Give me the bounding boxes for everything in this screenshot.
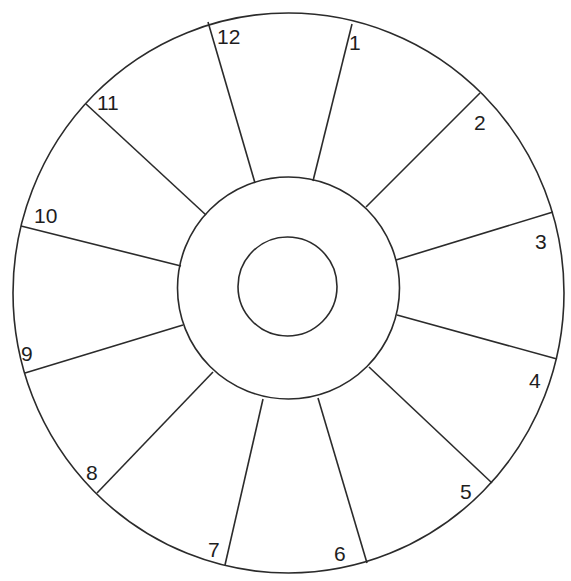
wheel-svg: 123456789101112 <box>0 0 571 581</box>
segment-label-6: 6 <box>334 542 346 565</box>
inner-circle <box>238 237 337 336</box>
outer-ring <box>13 13 564 573</box>
spoke-5 <box>369 367 492 483</box>
spoke-3 <box>396 212 553 260</box>
middle-ring <box>178 177 400 399</box>
segment-label-8: 8 <box>86 461 98 484</box>
spoke-7 <box>225 399 263 565</box>
spoke-10 <box>21 226 181 266</box>
segment-label-9: 9 <box>21 342 33 365</box>
segment-label-4: 4 <box>529 369 541 392</box>
wheel-diagram: 123456789101112 <box>0 0 571 581</box>
spoke-8 <box>97 372 213 493</box>
segment-label-1: 1 <box>349 31 361 54</box>
spoke-9 <box>25 325 183 373</box>
segment-label-7: 7 <box>208 538 220 561</box>
segment-label-12: 12 <box>217 25 240 48</box>
segment-label-5: 5 <box>460 480 472 503</box>
spoke-11 <box>86 104 206 215</box>
segment-label-2: 2 <box>474 111 486 134</box>
spoke-4 <box>397 315 557 359</box>
segment-label-3: 3 <box>535 230 547 253</box>
segment-label-10: 10 <box>34 204 57 227</box>
segment-label-11: 11 <box>97 91 119 114</box>
spoke-1 <box>313 24 352 181</box>
spoke-6 <box>318 398 367 563</box>
spoke-2 <box>366 93 480 207</box>
